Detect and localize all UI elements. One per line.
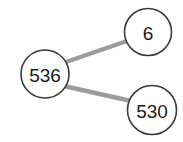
- part-bottom-value-label: 530: [136, 101, 168, 122]
- connector-whole-to-part-bottom: [64, 86, 131, 101]
- number-bond-canvas: 536 6 530: [0, 0, 183, 142]
- number-bond-diagram: 536 6 530: [0, 0, 183, 142]
- part-top-value-label: 6: [143, 23, 154, 44]
- whole-value-label: 536: [29, 65, 61, 86]
- connector-whole-to-part-top: [66, 41, 127, 62]
